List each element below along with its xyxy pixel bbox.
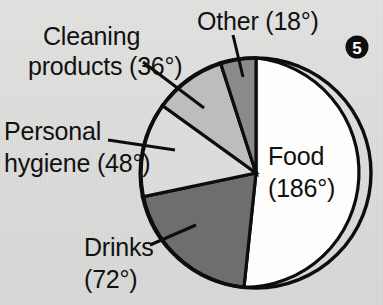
pie-slices bbox=[140, 58, 371, 288]
label-drinks-line2: (72°) bbox=[84, 265, 137, 293]
badge-number: 5 bbox=[352, 39, 361, 58]
label-food-line1: Food bbox=[268, 142, 324, 170]
label-cleaning-products-line1: Cleaning bbox=[43, 22, 140, 50]
figure-canvas: Other (18°) Cleaning products (36°) Pers… bbox=[0, 0, 383, 305]
pie-chart-figure: Other (18°) Cleaning products (36°) Pers… bbox=[0, 0, 383, 305]
figure-number-badge: 5 bbox=[346, 36, 369, 59]
label-cleaning-products-line2: products (36°) bbox=[28, 52, 183, 80]
label-drinks-line1: Drinks bbox=[84, 233, 154, 261]
label-personal-hygiene-line1: Personal bbox=[4, 117, 101, 145]
label-food-line2: (186°) bbox=[268, 174, 335, 202]
label-other: Other (18°) bbox=[197, 7, 319, 35]
label-personal-hygiene-line2: hygiene (48°) bbox=[4, 149, 150, 177]
pie-slice-food bbox=[244, 58, 359, 287]
